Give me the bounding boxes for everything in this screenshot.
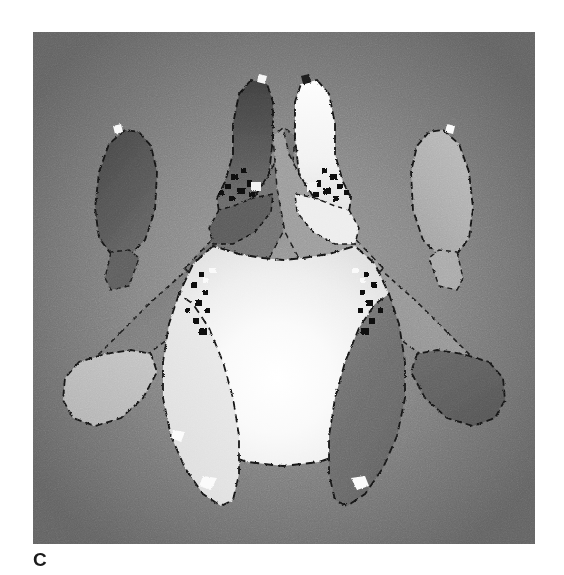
figure-panel: C	[0, 0, 564, 575]
scan-vector-content	[33, 32, 535, 544]
scan-image	[33, 32, 535, 544]
speckle-highlight-upper-right	[307, 182, 317, 191]
panel-letter-label: C	[33, 548, 47, 572]
speckle-highlight-upper-left	[251, 182, 261, 191]
